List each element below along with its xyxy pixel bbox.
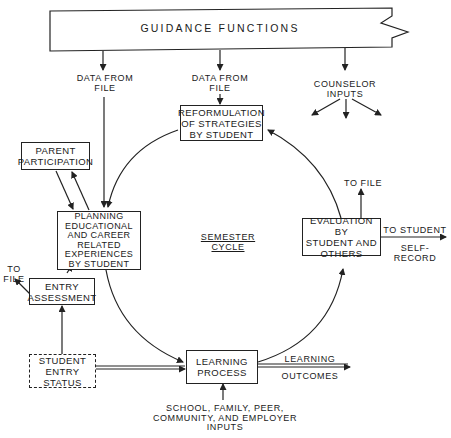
learning-label: LEARNING: [280, 354, 340, 364]
to-file-top-label: TO FILE: [338, 178, 388, 188]
to-student-label: TO STUDENT: [382, 225, 448, 235]
student-entry-status-box: STUDENT ENTRY STATUS: [29, 354, 96, 388]
entry-assessment-box: ENTRY ASSESSMENT: [29, 278, 95, 305]
planning-box: PLANNING EDUCATIONAL AND CAREER RELATED …: [57, 211, 141, 270]
external-inputs-label: SCHOOL, FAMILY, PEER, COMMUNITY, AND EMP…: [150, 404, 300, 433]
cycle-label: CYCLE: [211, 242, 244, 252]
reformulation-box: REFORMULATION OF STRATEGIES BY STUDENT: [180, 105, 263, 141]
guidance-functions-title: GUIDANCE FUNCTIONS: [50, 22, 390, 34]
learning-process-box: LEARNING PROCESS: [186, 350, 258, 384]
self-record-label: SELF-RECORD: [382, 243, 448, 263]
to-file-left-label: TO FILE: [2, 264, 26, 284]
counselor-inputs-label: COUNSELOR INPUTS: [312, 79, 378, 99]
semester-label: SEMESTER: [201, 232, 255, 242]
parent-participation-box: PARENT PARTICIPATION: [21, 142, 90, 170]
semester-cycle-label: SEMESTERCYCLE: [198, 232, 258, 252]
data-from-file-left-label: DATA FROM FILE: [75, 73, 135, 93]
data-from-file-center-label: DATA FROM FILE: [190, 73, 250, 93]
outcomes-label: OUTCOMES: [280, 371, 340, 381]
evaluation-box: EVALUATION BY STUDENT AND OTHERS: [302, 218, 381, 256]
